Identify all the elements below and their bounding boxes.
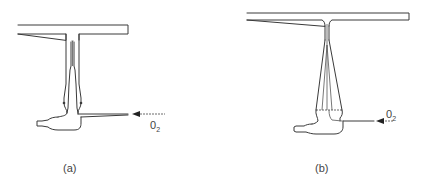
figure-b: 02 (b) — [214, 0, 428, 189]
spray-chamber-a — [37, 117, 81, 130]
cone-left-outer-b — [316, 40, 325, 110]
burner-head-a — [18, 25, 128, 40]
stem-left-wall-a — [64, 34, 66, 103]
arrow-head-icon-b — [376, 118, 384, 124]
figure-a: 02 (a) — [0, 0, 214, 189]
arrow-head-icon-a — [132, 111, 140, 117]
stem-right-wall-a — [79, 34, 81, 103]
neck-left-b — [312, 110, 318, 124]
burner-head-b — [247, 13, 409, 26]
caption-a: (a) — [63, 162, 76, 174]
oxidant-inlet-bottom-a — [81, 115, 128, 117]
burner-diagram-b — [214, 0, 428, 189]
inner-tube-right-a — [74, 42, 78, 113]
oxygen-label-b: 02 — [386, 108, 396, 122]
neck-right-a — [78, 103, 81, 114]
inner-tube-left-a — [67, 42, 71, 113]
caption-b: (b) — [315, 162, 328, 174]
burner-diagram-a — [0, 0, 214, 189]
neck-left-a — [58, 103, 67, 117]
neck-right-b — [340, 110, 342, 121]
oxygen-label-a: 02 — [150, 119, 160, 133]
spray-chamber-b — [294, 121, 343, 134]
